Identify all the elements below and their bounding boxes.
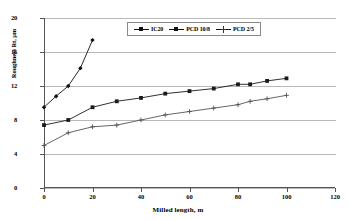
x-tick-mark — [287, 188, 288, 192]
legend-marker-icon — [134, 26, 149, 33]
y-tick-label: 20 — [0, 15, 17, 22]
gridline — [45, 120, 336, 121]
x-tick-label: 60 — [175, 194, 205, 201]
y-tick-label: 16 — [0, 49, 17, 56]
gridline — [45, 18, 336, 19]
legend: IC20PCD 10/8PCD 2/5 — [127, 22, 261, 36]
legend-marker-icon — [216, 26, 231, 33]
roughness-vs-milled-length-chart: Roughness Rt, µm 201612840 0204060801001… — [0, 0, 356, 220]
y-tick-label: 0 — [0, 185, 17, 192]
gridline — [45, 52, 336, 53]
x-tick-label: 40 — [126, 194, 156, 201]
x-axis-title: Milled length, m — [0, 206, 356, 214]
legend-entry-2[interactable]: PCD 2/5 — [216, 26, 254, 33]
gridline — [45, 188, 336, 189]
x-tick-label: 120 — [320, 194, 350, 201]
x-tick-mark — [190, 188, 191, 192]
legend-label: PCD 10/8 — [186, 26, 210, 32]
y-tick-label: 12 — [0, 83, 17, 90]
x-tick-mark — [335, 188, 336, 192]
x-tick-mark — [93, 188, 94, 192]
x-tick-label: 100 — [272, 194, 302, 201]
x-tick-mark — [141, 188, 142, 192]
legend-entry-0[interactable]: IC20 — [134, 26, 163, 33]
x-tick-label: 80 — [223, 194, 253, 201]
x-tick-label: 20 — [78, 194, 108, 201]
x-tick-label: 0 — [29, 194, 59, 201]
y-tick-label: 4 — [0, 151, 17, 158]
plot-area — [44, 18, 335, 188]
x-tick-mark — [44, 188, 45, 192]
legend-label: IC20 — [151, 26, 163, 32]
legend-label: PCD 2/5 — [233, 26, 254, 32]
legend-entry-1[interactable]: PCD 10/8 — [169, 26, 210, 33]
gridline — [45, 154, 336, 155]
x-tick-mark — [238, 188, 239, 192]
legend-marker-icon — [169, 26, 184, 33]
y-tick-label: 8 — [0, 117, 17, 124]
gridline — [45, 86, 336, 87]
